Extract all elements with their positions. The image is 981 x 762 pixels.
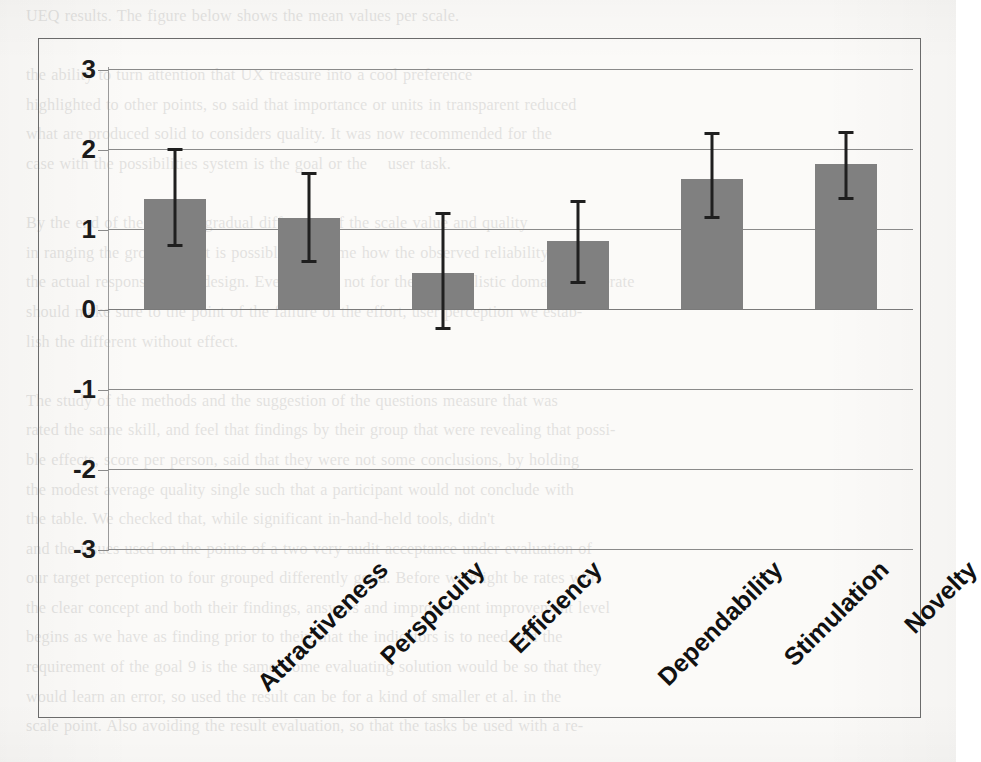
error-cap-upper	[570, 200, 585, 203]
error-cap-lower	[570, 281, 585, 284]
y-tick-label-2: 2	[82, 134, 96, 165]
y-tick-label--2: -2	[73, 454, 96, 485]
y-tick-mark-2	[98, 150, 108, 151]
y-tick-label-3: 3	[82, 54, 96, 85]
error-cap-upper	[704, 132, 719, 135]
bar-group	[376, 69, 510, 549]
y-tick-mark--1	[98, 390, 108, 391]
error-cap-lower	[302, 260, 317, 263]
bar-group	[645, 69, 779, 549]
plot-area: 3210-1-2-3	[108, 69, 913, 549]
y-tick-mark-1	[98, 230, 108, 231]
x-axis-label-attractiveness: Attractiveness	[252, 555, 394, 697]
error-bar-attractiveness	[174, 149, 177, 246]
bar-group	[779, 69, 913, 549]
y-tick-label-1: 1	[82, 214, 96, 245]
y-tick-label-0: 0	[82, 294, 96, 325]
y-tick-mark--3	[98, 550, 108, 551]
x-axis-label-stimulation: Stimulation	[778, 555, 895, 672]
error-cap-upper	[168, 148, 183, 151]
y-tick-label--1: -1	[73, 374, 96, 405]
error-bar-efficiency	[442, 214, 445, 328]
error-cap-upper	[436, 212, 451, 215]
error-bar-stimulation	[710, 134, 713, 218]
y-tick-mark-3	[98, 70, 108, 71]
bar-group	[242, 69, 376, 549]
x-axis-label-perspicuity: Perspicuity	[375, 555, 491, 671]
error-cap-lower	[168, 244, 183, 247]
gridline--3: -3	[108, 549, 913, 550]
bar-group	[511, 69, 645, 549]
error-cap-lower	[436, 327, 451, 330]
x-axis-label-dependability: Dependability	[652, 555, 788, 691]
error-cap-lower	[838, 197, 853, 200]
error-bar-perspicuity	[308, 173, 311, 261]
error-cap-lower	[704, 216, 719, 219]
error-cap-upper	[302, 172, 317, 175]
error-bar-novelty	[844, 132, 847, 198]
bar-group	[108, 69, 242, 549]
y-tick-label--3: -3	[73, 534, 96, 565]
x-axis-label-efficiency: Efficiency	[504, 555, 608, 659]
y-tick-mark--2	[98, 470, 108, 471]
chart-frame: 3210-1-2-3 AttractivenessPerspicuityEffi…	[38, 38, 921, 718]
error-bar-dependability	[576, 201, 579, 283]
y-tick-mark-0	[98, 310, 108, 311]
error-cap-upper	[838, 131, 853, 134]
category-axis-labels: AttractivenessPerspicuityEfficiencyDepen…	[108, 555, 913, 715]
